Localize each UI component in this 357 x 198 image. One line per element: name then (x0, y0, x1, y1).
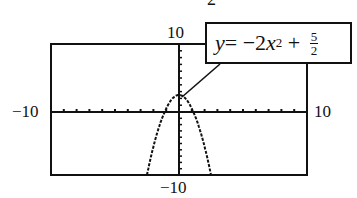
frac-denominator: 2 (311, 44, 318, 57)
xmin-label: −10 (12, 103, 39, 120)
eq-y: y (215, 30, 225, 56)
equation-callout: y = −2 x 2 + 5 2 (205, 22, 352, 64)
eq-x: x (266, 30, 276, 56)
ymin-label: −10 (160, 179, 187, 196)
xmax-label: 10 (314, 103, 331, 120)
eq-equals: = −2 (225, 30, 266, 56)
callout-leader-line (182, 64, 220, 97)
frac-numerator: 5 (310, 30, 319, 44)
eq-plus: + (282, 30, 305, 56)
eq-fraction: 5 2 (310, 30, 319, 57)
ymax-label: 10 (167, 24, 184, 41)
